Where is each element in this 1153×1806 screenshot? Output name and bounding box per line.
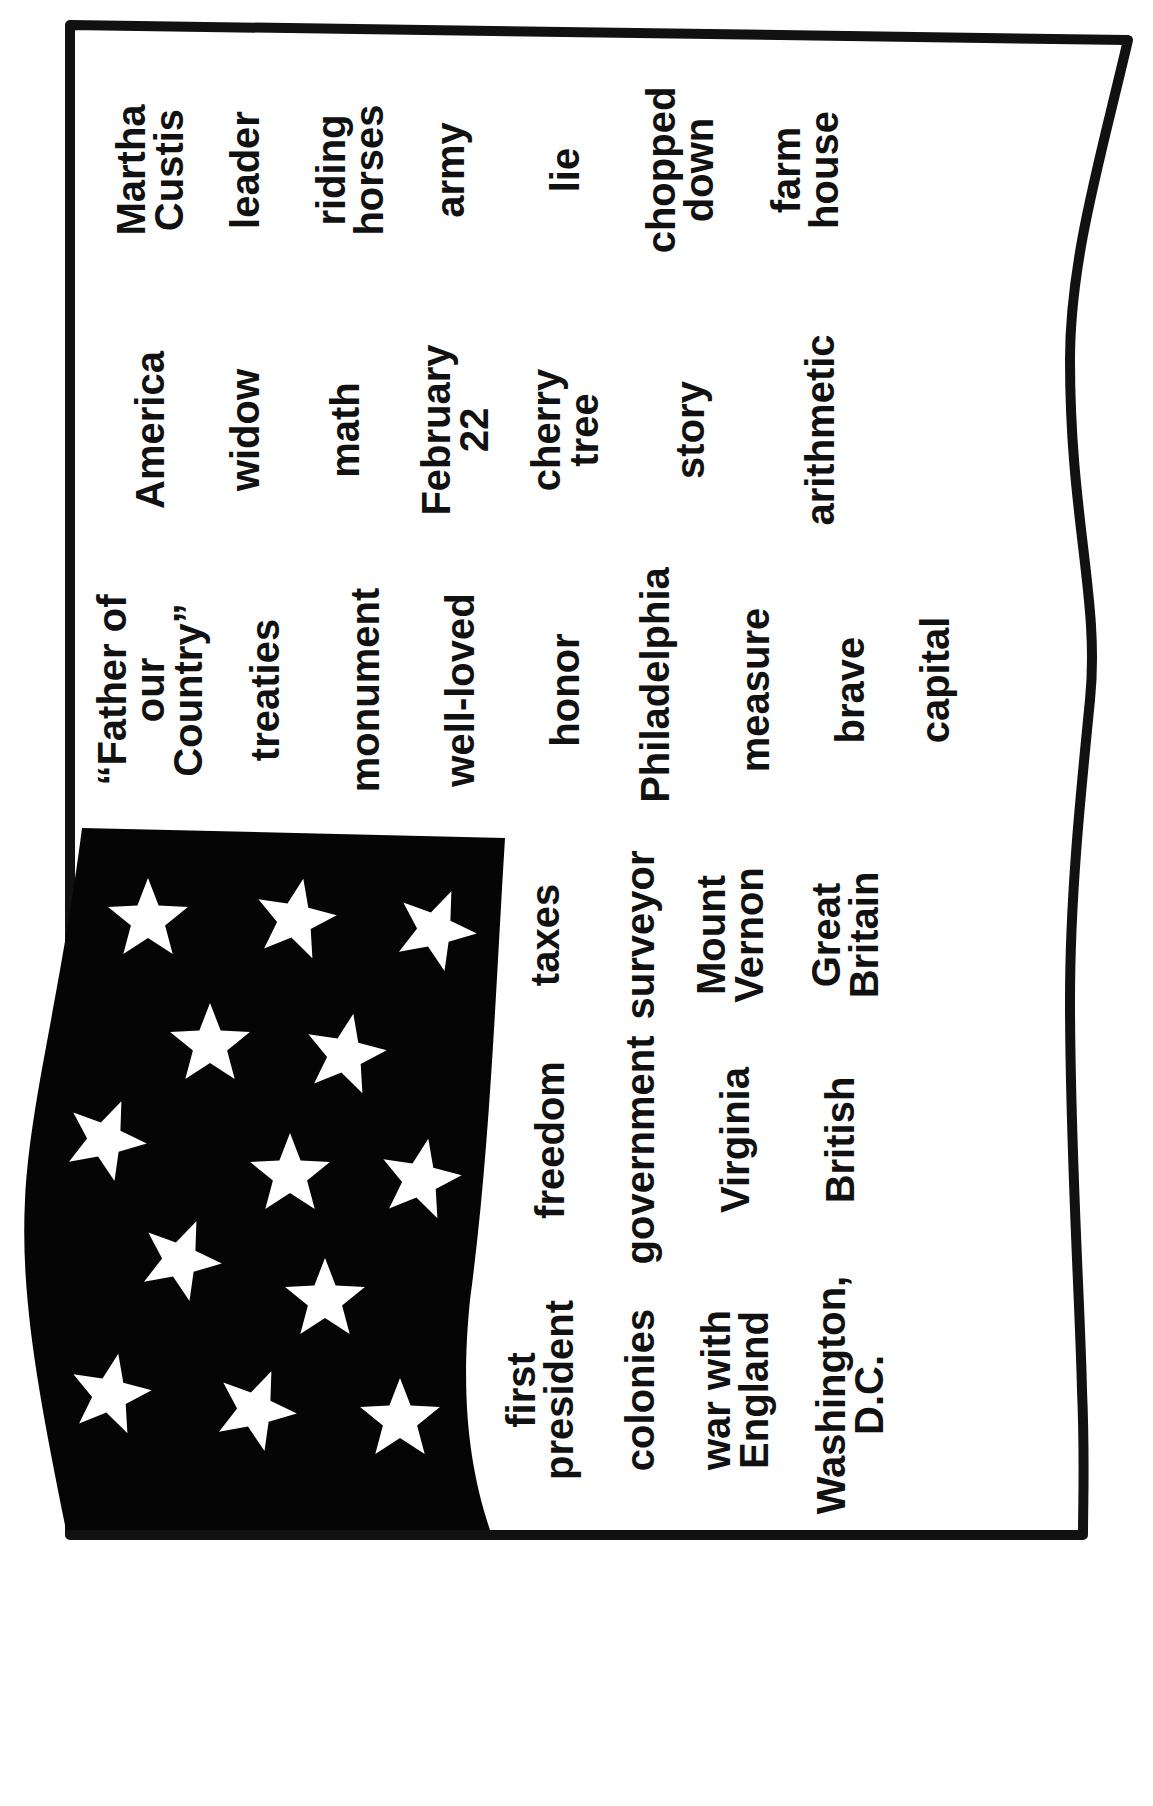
star-icon xyxy=(360,1378,440,1454)
word-bank-item: government xyxy=(621,1036,659,1265)
word-bank-item: surveyor xyxy=(621,851,659,1020)
word-bank-item: treaties xyxy=(246,619,284,761)
word-bank-item: America xyxy=(131,351,169,509)
word-bank-item: first president xyxy=(502,1300,578,1480)
word-bank-item: chopped down xyxy=(642,87,718,254)
star-icon xyxy=(285,1258,365,1334)
word-bank-item: capital xyxy=(916,617,954,744)
star-icon xyxy=(69,1101,147,1181)
word-bank-item: cherry tree xyxy=(527,369,603,491)
word-bank-item: leader xyxy=(226,111,264,229)
word-bank-item: math xyxy=(326,382,364,478)
word-bank-item: Virginia xyxy=(716,1067,754,1213)
word-bank-item: Philadelphia xyxy=(636,567,674,803)
star-icon xyxy=(144,1221,222,1301)
word-bank-item: brave xyxy=(831,637,869,744)
word-bank-item: honor xyxy=(546,633,584,746)
word-bank-item: widow xyxy=(226,369,264,491)
word-bank-item: story xyxy=(671,381,709,479)
word-bank-item: “Father of our Country” xyxy=(93,594,207,785)
word-bank-item: February 22 xyxy=(417,344,493,515)
star-icon xyxy=(258,879,336,958)
word-bank-item: Mount Vernon xyxy=(692,867,768,1003)
word-bank-item: Washington, D.C. xyxy=(812,1276,888,1514)
word-bank-item: British xyxy=(821,1077,859,1204)
word-bank-item: Great Britain xyxy=(807,872,883,999)
word-bank-item: freedom xyxy=(531,1061,569,1219)
word-bank-item: measure xyxy=(736,608,774,773)
word-bank-item: arithmetic xyxy=(801,334,839,525)
word-bank-item: Martha Custis xyxy=(112,104,188,235)
star-icon xyxy=(170,1003,250,1079)
star-icon xyxy=(250,1133,330,1209)
word-bank-item: colonies xyxy=(621,1309,659,1471)
star-icon xyxy=(308,1014,386,1093)
word-bank-item: taxes xyxy=(526,884,564,986)
word-bank-item: army xyxy=(431,122,469,218)
star-icon xyxy=(383,1139,461,1218)
word-bank-item: riding horses xyxy=(312,104,388,235)
star-icon xyxy=(399,891,477,971)
star-icon xyxy=(73,1354,151,1433)
word-bank-item: lie xyxy=(546,148,584,192)
word-bank-item: monument xyxy=(346,588,384,792)
star-icon xyxy=(219,1371,297,1451)
word-bank-item: well-loved xyxy=(441,593,479,786)
star-icon xyxy=(108,878,188,954)
word-bank-item: war with England xyxy=(697,1310,773,1470)
word-bank-item: farm house xyxy=(767,111,843,229)
